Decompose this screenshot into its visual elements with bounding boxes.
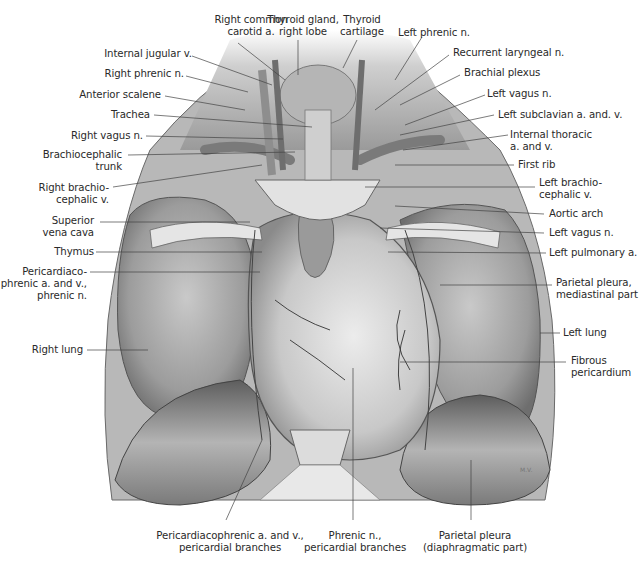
label-phrenic-n-branches: Phrenic n., pericardial branches <box>300 530 410 554</box>
anatomy-illustration: M.V. <box>0 0 640 562</box>
label-pericardiacophrenic: Pericardiaco- phrenic a. and v., phrenic… <box>1 266 87 302</box>
trachea <box>305 110 331 180</box>
label-brachial-plexus: Brachial plexus <box>464 67 540 79</box>
label-first-rib: First rib <box>518 159 555 171</box>
label-thymus: Thymus <box>54 246 94 258</box>
label-right-vagus-n: Right vagus n. <box>71 130 143 142</box>
label-right-phrenic-n: Right phrenic n. <box>105 68 184 80</box>
label-left-lung: Left lung <box>563 327 607 339</box>
label-superior-vena-cava: Superior vena cava <box>43 215 94 239</box>
label-left-pulmonary-a: Left pulmonary a. <box>549 247 637 259</box>
label-anterior-scalene: Anterior scalene <box>79 89 161 101</box>
label-fibrous-pericardium: Fibrous pericardium <box>571 355 631 379</box>
label-left-phrenic-n: Left phrenic n. <box>398 27 470 39</box>
label-left-vagus-n-upper: Left vagus n. <box>487 88 552 100</box>
label-recurrent-laryngeal-n: Recurrent laryngeal n. <box>453 47 564 59</box>
artist-signature: M.V. <box>520 466 532 473</box>
label-aortic-arch: Aortic arch <box>549 208 603 220</box>
label-brachiocephalic-trunk: Brachiocephalic trunk <box>43 149 122 173</box>
label-left-brachiocephalic-v: Left brachio- cephalic v. <box>539 177 602 201</box>
label-right-lung: Right lung <box>32 344 83 356</box>
lower-sternum <box>290 430 350 465</box>
label-parietal-pleura-diaphragmatic: Parietal pleura (diaphragmatic part) <box>420 530 530 554</box>
label-trachea: Trachea <box>111 109 150 121</box>
anatomy-figure: M.V. Right common carotid a. Thyroid gla… <box>0 0 640 562</box>
label-thyroid-cartilage: Thyroid cartilage <box>332 14 392 38</box>
label-left-vagus-n-lower: Left vagus n. <box>549 227 614 239</box>
label-parietal-pleura-mediastinal: Parietal pleura, mediastinal part <box>556 277 638 301</box>
label-internal-jugular-v: Internal jugular v. <box>104 48 192 60</box>
label-left-subclavian: Left subclavian a. and. v. <box>498 109 622 121</box>
label-pericardiacophrenic-branches: Pericardiacophrenic a. and v., pericardi… <box>150 530 310 554</box>
label-right-brachiocephalic-v: Right brachio- cephalic v. <box>38 182 109 206</box>
label-internal-thoracic: Internal thoracic a. and v. <box>510 129 592 153</box>
